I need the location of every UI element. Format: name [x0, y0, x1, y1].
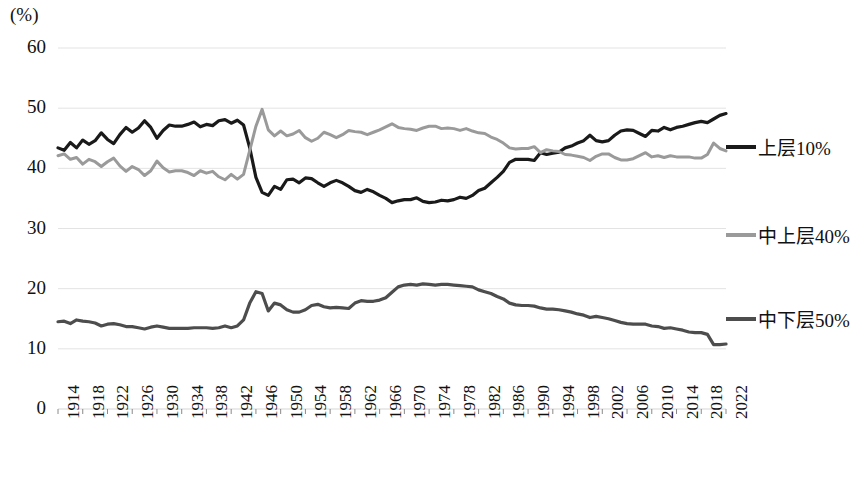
x-axis-tick-label-1982: 1982 — [485, 385, 505, 419]
legend-swatch-icon-0 — [726, 145, 756, 149]
series-line-upper40 — [58, 109, 726, 179]
legend-label-2: 中下层50% — [756, 305, 850, 332]
x-axis-tick-label-1930: 1930 — [163, 385, 183, 419]
legend-item-1[interactable]: 中上层40% — [726, 221, 850, 248]
x-axis-tick-label-2010: 2010 — [658, 385, 678, 419]
legend-swatch-icon-1 — [726, 233, 756, 237]
x-axis-tick-label-1978: 1978 — [460, 385, 480, 419]
x-axis-tick-label-2006: 2006 — [633, 385, 653, 419]
y-axis-tick-label-40: 40 — [2, 157, 46, 176]
legend-item-2[interactable]: 中下层50% — [726, 305, 850, 332]
x-axis-tick-label-2002: 2002 — [608, 385, 628, 419]
x-axis-tick-label-1962: 1962 — [361, 385, 381, 419]
legend-label-1: 中上层40% — [756, 221, 850, 248]
x-axis-tick-label-2014: 2014 — [683, 385, 703, 419]
series-line-lower50 — [58, 284, 726, 345]
y-axis-tick-label-20: 20 — [2, 278, 46, 297]
x-axis-tick-label-1926: 1926 — [138, 385, 158, 419]
x-axis-tick-label-1942: 1942 — [237, 385, 257, 419]
x-axis-tick-label-1998: 1998 — [584, 385, 604, 419]
x-axis-tick-label-2018: 2018 — [707, 385, 727, 419]
x-axis-tick-label-2022: 2022 — [732, 385, 752, 419]
legend-label-0: 上层10% — [756, 133, 831, 160]
x-axis-tick-label-1986: 1986 — [509, 385, 529, 419]
x-axis-tick-label-1914: 1914 — [64, 385, 84, 419]
chart-container: (%) 0102030405060 1914191819221926193019… — [0, 0, 867, 487]
x-axis-tick-label-1934: 1934 — [188, 385, 208, 419]
y-axis-tick-label-60: 60 — [2, 37, 46, 56]
series-line-top10 — [58, 114, 726, 203]
y-axis-tick-label-0: 0 — [2, 398, 46, 417]
y-axis-tick-label-30: 30 — [2, 218, 46, 237]
x-axis-tick-label-1918: 1918 — [89, 385, 109, 419]
x-axis-tick-label-1922: 1922 — [113, 385, 133, 419]
x-axis-tick-label-1974: 1974 — [435, 385, 455, 419]
x-axis-tick-label-1950: 1950 — [287, 385, 307, 419]
x-axis-tick-label-1966: 1966 — [386, 385, 406, 419]
x-axis-tick-label-1946: 1946 — [262, 385, 282, 419]
y-axis-tick-label-10: 10 — [2, 338, 46, 357]
x-axis-tick-label-1970: 1970 — [410, 385, 430, 419]
legend-swatch-icon-2 — [726, 317, 756, 321]
x-axis-tick-label-1954: 1954 — [311, 385, 331, 419]
legend-item-0[interactable]: 上层10% — [726, 133, 831, 160]
x-axis-tick-label-1938: 1938 — [212, 385, 232, 419]
x-axis-tick-label-1990: 1990 — [534, 385, 554, 419]
x-axis-tick-label-1958: 1958 — [336, 385, 356, 419]
y-axis-tick-label-50: 50 — [2, 97, 46, 116]
x-axis-tick-label-1994: 1994 — [559, 385, 579, 419]
